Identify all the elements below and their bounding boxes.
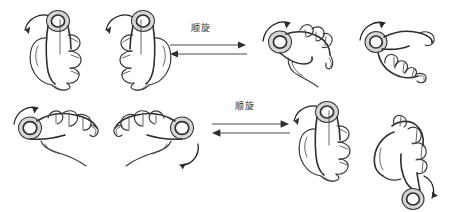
hand-br-a bbox=[294, 102, 350, 182]
panel-top-left bbox=[8, 2, 183, 102]
hand-tr-a bbox=[263, 22, 333, 87]
figure-canvas: 顺旋 bbox=[0, 0, 458, 212]
hand-br-b bbox=[374, 115, 438, 209]
hand-tl-b bbox=[106, 11, 171, 91]
panel-top-right bbox=[256, 6, 456, 102]
arrow-right-icon bbox=[212, 120, 289, 128]
bottom-transition-label: 顺旋 bbox=[235, 102, 255, 111]
rotation-arrow-icon bbox=[106, 15, 133, 34]
arrow-left-icon bbox=[170, 50, 247, 57]
hand-tl-a bbox=[25, 11, 81, 91]
rotation-arrow-icon bbox=[424, 176, 438, 198]
hand-tr-b bbox=[360, 22, 434, 83]
arrow-right-icon bbox=[170, 41, 246, 48]
hand-bl-a bbox=[14, 107, 98, 166]
top-transition-label: 顺旋 bbox=[191, 24, 211, 33]
rotation-arrow-icon bbox=[180, 144, 198, 170]
panel-bottom-right bbox=[286, 96, 456, 210]
hand-bl-b bbox=[114, 111, 198, 170]
arrow-left-icon bbox=[212, 129, 290, 137]
panel-bottom-left bbox=[10, 102, 210, 182]
